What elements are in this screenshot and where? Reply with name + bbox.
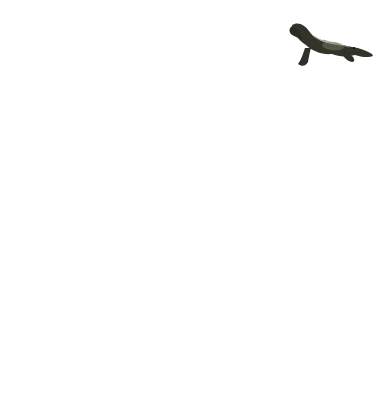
phylogenetic-tree <box>0 0 387 420</box>
cladogram-figure <box>0 0 387 420</box>
crocodile-front-leg <box>298 48 311 66</box>
crocodile-photo <box>290 23 373 65</box>
crocodile-eye <box>353 47 355 49</box>
